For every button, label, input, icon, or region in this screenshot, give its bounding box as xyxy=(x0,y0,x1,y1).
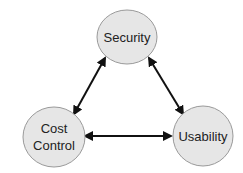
security-label: Security xyxy=(104,30,151,45)
edge-security-usability xyxy=(149,58,183,114)
node-usability: Usability xyxy=(173,106,233,166)
edge-security-cost-control xyxy=(74,58,105,114)
node-security: Security xyxy=(97,10,157,64)
cost-control-label-line1: Cost xyxy=(41,121,68,136)
cost-control-label-line2: Control xyxy=(33,138,75,153)
node-cost-control: Cost Control xyxy=(23,107,85,167)
tradeoff-diagram: Security Cost Control Usability xyxy=(0,0,243,173)
cost-control-ellipse xyxy=(23,107,85,167)
usability-label: Usability xyxy=(178,129,228,144)
